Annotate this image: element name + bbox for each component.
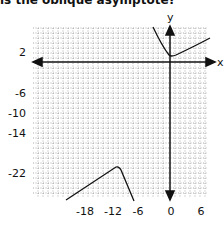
y-axis-up-arrow-icon [166, 26, 174, 35]
y-tick: 2 [19, 46, 26, 59]
x-axis-label: x [217, 56, 224, 69]
x-tick: 6 [198, 205, 205, 218]
upper-branch-curve [153, 27, 210, 56]
y-tick: -10 [8, 107, 26, 120]
x-tick: -12 [104, 205, 122, 218]
y-tick: -14 [8, 127, 26, 140]
graph: x y 2 -6 -10 -14 -22 -18 -12 -6 0 6 [0, 0, 224, 230]
x-axis-right-arrow-icon [206, 58, 215, 66]
x-tick: 0 [168, 205, 175, 218]
x-tick-labels: -18 -12 -6 0 6 [76, 205, 204, 218]
y-axis-down-arrow-icon [166, 191, 174, 200]
y-tick-labels: 2 -6 -10 -14 -22 [8, 46, 26, 180]
x-tick: -18 [76, 205, 94, 218]
y-tick: -6 [15, 87, 26, 100]
y-tick: -22 [8, 167, 26, 180]
x-axis [33, 58, 215, 66]
x-axis-left-arrow-icon [33, 58, 42, 66]
lower-branch-curve [66, 167, 134, 201]
x-tick: -6 [133, 205, 144, 218]
y-axis-label: y [167, 11, 174, 24]
